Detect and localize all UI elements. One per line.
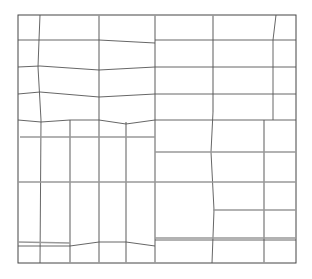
grid-line <box>211 112 213 152</box>
grid-line <box>18 66 40 67</box>
grid-line <box>41 120 70 122</box>
grid-line <box>18 242 70 243</box>
grid-line <box>126 120 155 124</box>
grid-line <box>273 15 276 40</box>
grid-line <box>38 67 41 120</box>
grid-diagram <box>0 0 312 279</box>
grid-line <box>40 120 41 263</box>
grid-line <box>212 210 214 263</box>
grid-line <box>38 40 39 67</box>
grid-line <box>18 92 40 94</box>
grid-line <box>99 40 155 43</box>
grid-line <box>39 15 40 40</box>
grid-line <box>99 67 155 70</box>
grid-line <box>40 92 99 97</box>
grid-line <box>70 242 99 246</box>
outer-border <box>18 15 296 263</box>
grid-line <box>99 120 126 124</box>
grid-line <box>18 120 41 122</box>
grid-line <box>40 66 99 70</box>
grid-line <box>99 94 155 97</box>
grid-lines <box>18 15 296 263</box>
grid-line <box>126 242 155 246</box>
grid-line <box>211 152 214 210</box>
